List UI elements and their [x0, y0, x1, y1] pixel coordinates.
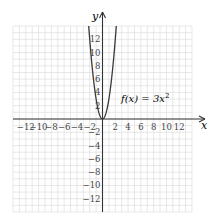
y-tick-label: −12	[83, 194, 101, 204]
x-tick-label: −4	[71, 122, 84, 132]
y-tick-label: −10	[83, 180, 101, 190]
y-tick-label: 12	[90, 34, 101, 44]
x-tick-label: 4	[125, 122, 130, 132]
y-tick-label: −8	[88, 167, 101, 177]
x-tick-label: 12	[174, 122, 185, 132]
x-tick-label: −6	[58, 122, 71, 132]
y-tick-label: −6	[88, 154, 101, 164]
y-tick-label: 6	[95, 74, 100, 84]
function-label-exponent: 2	[165, 92, 169, 100]
y-tick-label: −2	[88, 127, 101, 137]
x-axis-label: x	[201, 119, 208, 132]
function-graph: −12−10−8−6−4−22468101212108642−2−4−6−8−1…	[0, 0, 218, 221]
y-tick-label: 8	[95, 61, 100, 71]
x-tick-label: −8	[45, 122, 58, 132]
x-tick-label: 2	[113, 122, 118, 132]
x-tick-label: 10	[161, 122, 172, 132]
x-tick-label: 6	[138, 122, 143, 132]
y-tick-label: −4	[88, 141, 101, 151]
y-axis-label: y	[91, 10, 99, 23]
x-tick-label: 8	[151, 122, 156, 132]
function-label-main: f(x) = 3x	[120, 93, 165, 104]
function-label: f(x) = 3x2	[120, 92, 169, 104]
